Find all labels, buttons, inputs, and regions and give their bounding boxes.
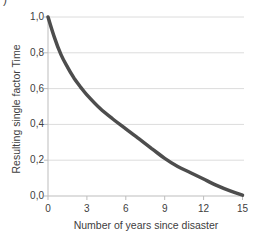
- x-tick-label: 3: [75, 204, 99, 214]
- data-curve: [48, 17, 243, 195]
- x-tick-label: 9: [153, 204, 177, 214]
- x-tick-label: 0: [36, 204, 60, 214]
- x-axis-title: Number of years since disaster: [48, 219, 244, 231]
- x-tick-label: 15: [231, 204, 255, 214]
- x-tick-label: 6: [114, 204, 138, 214]
- y-tick-label: 0,0: [18, 191, 44, 201]
- line-chart-figure: ) 0,00,20,40,60,81,0 03691215 Resulting …: [0, 0, 257, 242]
- y-tick-label: 1,0: [18, 12, 44, 22]
- x-tick-label: 12: [192, 204, 216, 214]
- y-axis-title: Resulting single factor Time: [10, 45, 22, 174]
